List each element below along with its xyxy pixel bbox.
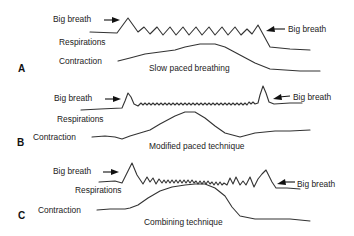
panel-c-respirations-wave [99,163,300,189]
panel-a-left-arrow-icon [104,17,120,23]
panel-b-right-arrow-icon [273,94,290,100]
panel-b-title: Modified paced technique [149,142,244,150]
panel-c-big-breath-left-label: Big breath [53,167,91,175]
panel-a-letter: A [18,64,25,74]
panel-a-big-breath-left-label: Big breath [53,15,91,23]
panel-a-contraction-label: Contraction [59,57,102,65]
panel-a-right-arrow-icon [266,26,285,32]
panel-b-letter: B [17,138,24,148]
panel-a-big-breath-right-label: Big breath [288,25,326,33]
panel-b-contraction-label: Contraction [33,133,76,141]
panel-c-title: Combining technique [144,218,223,226]
panel-c-big-breath-right-label: Big breath [297,180,335,188]
panel-b-left-arrow-icon [105,96,121,102]
panel-c-letter: C [18,211,25,221]
panel-b-contraction-wave [92,112,310,139]
panel-c-contraction-label: Contraction [38,206,81,214]
panel-b-big-breath-right-label: Big breath [293,93,331,101]
panel-a-respirations-label: Respirations [59,38,106,46]
panel-a-respirations-wave [90,18,310,50]
waveforms [0,0,354,236]
panel-c-respirations-label: Respirations [75,186,122,194]
panel-a-title: Slow paced breathing [149,64,230,72]
panel-c-left-arrow-icon [103,169,119,175]
panel-b-respirations-label: Respirations [57,115,104,123]
panel-c-right-arrow-icon [277,179,295,185]
panel-c-contraction-wave [97,184,310,221]
panel-b-big-breath-left-label: Big breath [54,94,92,102]
